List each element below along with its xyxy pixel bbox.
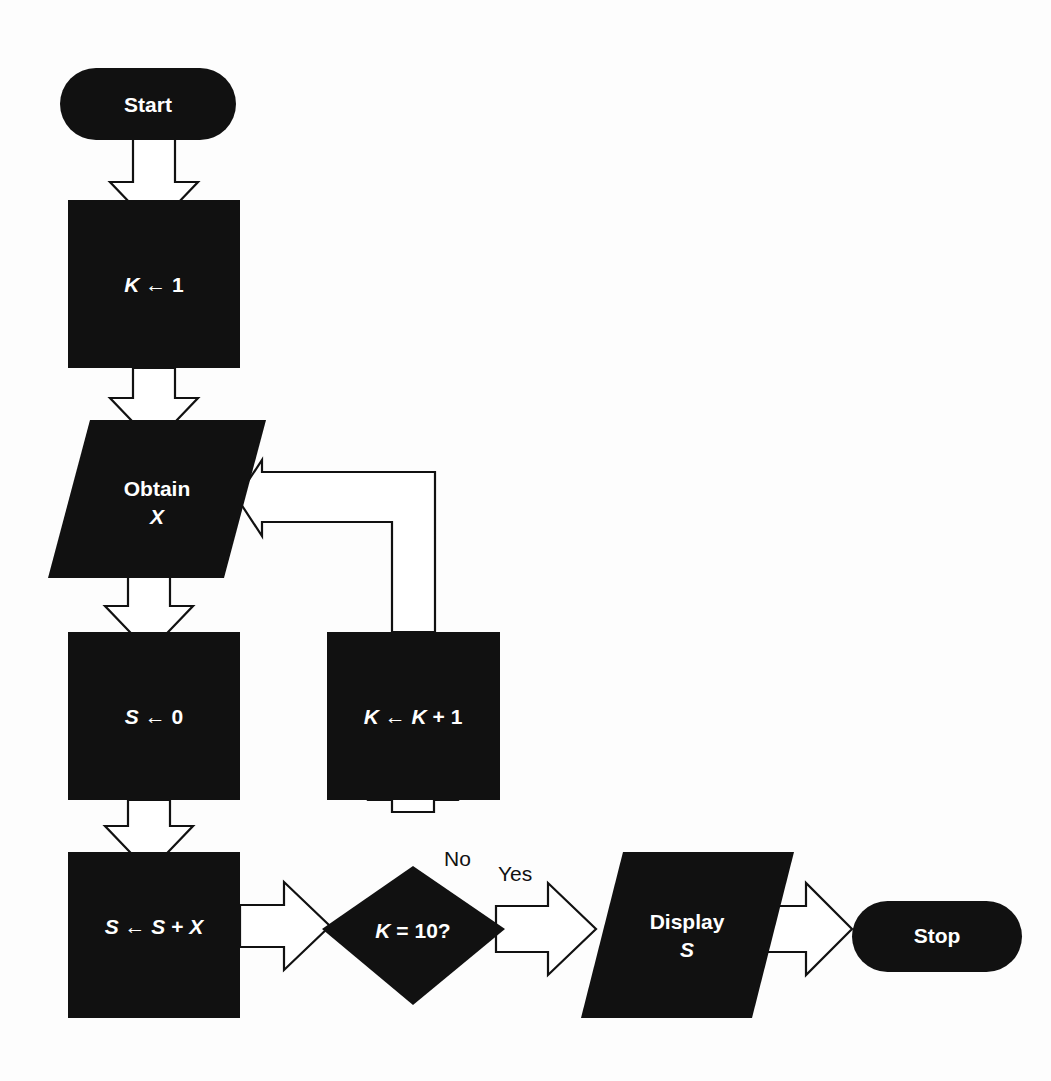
node-init-s-label: S ← 0: [125, 705, 183, 728]
flowchart-svg: Start K ← 1 Obtain X S ← 0 K ← K + 1 S ←…: [0, 0, 1051, 1081]
node-accumulate-label: S ← S + X: [105, 915, 206, 938]
edge-label-yes: Yes: [498, 862, 532, 885]
node-display-s-label-line2: S: [680, 938, 694, 961]
node-obtain-x-label-line2: X: [149, 505, 166, 528]
node-stop-label: Stop: [914, 924, 961, 947]
connector-increment-k-to-obtain-x: [237, 460, 435, 632]
node-start-label: Start: [124, 93, 172, 116]
node-obtain-x-label-line1: Obtain: [124, 477, 191, 500]
node-display-s-label-line1: Display: [650, 910, 725, 933]
node-increment-k-label: K ← K + 1: [364, 705, 463, 728]
node-init-k-label: K ← 1: [124, 273, 184, 296]
flowchart-canvas: Start K ← 1 Obtain X S ← 0 K ← K + 1 S ←…: [0, 0, 1051, 1081]
connector-decision-yes-to-display: [496, 883, 596, 975]
connector-accumulate-to-decision: [240, 882, 330, 970]
node-decision-label: K = 10?: [375, 919, 450, 942]
edge-label-no: No: [444, 847, 471, 870]
node-display-s[interactable]: [581, 852, 794, 1018]
